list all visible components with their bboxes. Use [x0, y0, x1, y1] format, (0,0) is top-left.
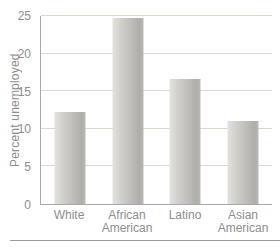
x-label-african-american: African American [95, 209, 159, 235]
bar-chart: Percent unemployed 0510152025 WhiteAfric… [0, 0, 280, 250]
bottom-rule [10, 240, 280, 241]
y-tick-label-10: 10 [18, 123, 31, 135]
x-axis-labels: WhiteAfrican AmericanLatinoAsian America… [40, 209, 272, 237]
y-tick-label-15: 15 [18, 86, 31, 98]
plot-area [40, 16, 272, 205]
y-tick-label-20: 20 [18, 48, 31, 60]
bar-white [54, 112, 85, 204]
y-tick-label-5: 5 [24, 161, 31, 173]
y-axis-ticks: 0510152025 [0, 16, 35, 205]
gridline-25 [41, 15, 272, 16]
y-tick-label-0: 0 [24, 199, 31, 211]
x-label-asian-american: Asian American [211, 209, 275, 235]
gridline-20 [41, 53, 272, 54]
bar-latino [170, 79, 201, 204]
x-label-latino: Latino [153, 209, 217, 222]
x-label-white: White [37, 209, 101, 222]
bar-african-american [112, 18, 143, 204]
gridline-15 [41, 90, 272, 91]
bar-asian-american [228, 121, 259, 204]
y-tick-label-25: 25 [18, 10, 31, 22]
